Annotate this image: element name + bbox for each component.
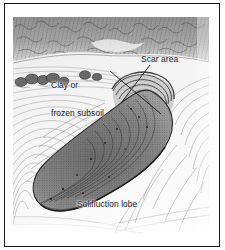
illustration-canvas: [13, 17, 209, 234]
right-fade: [197, 17, 209, 234]
solifluction-lobe-illustration: Clay or frozen subsoil Scar area Soliflu…: [13, 17, 209, 234]
figure-frame: Clay or frozen subsoil Scar area Soliflu…: [4, 3, 220, 247]
bottom-fade: [13, 223, 209, 234]
